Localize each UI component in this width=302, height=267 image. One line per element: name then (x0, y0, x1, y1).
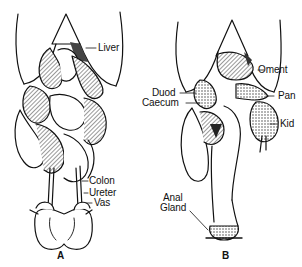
panel-letter-a: A (57, 250, 64, 261)
panel-letter-b: B (222, 250, 229, 261)
anatomical-figure: Liver Colon Ureter Vas A Oment Duod Caec… (0, 0, 302, 267)
label-pan: Pan (278, 91, 296, 101)
label-liver: Liver (98, 43, 119, 53)
label-caecum: Caecum (142, 98, 179, 108)
label-vas: Vas (94, 198, 110, 208)
label-oment: Oment (258, 65, 288, 75)
label-kid: Kid (280, 119, 294, 129)
panel-b-drawing (176, 20, 281, 240)
figure-drawing (0, 0, 302, 267)
label-colon: Colon (89, 176, 115, 186)
label-gland: Gland (160, 203, 186, 213)
